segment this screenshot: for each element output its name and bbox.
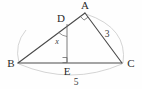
vertex-label-C: C	[127, 57, 134, 69]
vertex-label-A: A	[81, 0, 89, 11]
geometry-figure: A B C D E 3 5 x	[0, 0, 142, 89]
vertex-label-E: E	[64, 65, 71, 77]
lower-arc-B-to-C-icon	[19, 64, 122, 75]
side-length-label-ac: 3	[105, 29, 110, 39]
vertex-label-B: B	[7, 57, 14, 69]
right-angle-at-E-icon	[63, 58, 68, 63]
angle-label-x: x	[54, 37, 59, 46]
side-length-label-bc: 5	[74, 77, 79, 87]
geometry-canvas: A B C D E 3 5 x	[0, 0, 142, 89]
right-angle-at-A-icon	[81, 17, 89, 21]
segment-BA	[18, 13, 85, 63]
vertex-label-D: D	[57, 12, 65, 24]
segment-AC	[85, 13, 122, 63]
